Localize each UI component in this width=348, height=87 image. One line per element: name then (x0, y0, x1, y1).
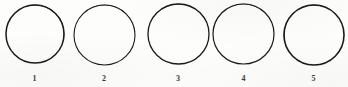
circle-label-1: 1 (28, 75, 42, 83)
circle-4 (209, 0, 278, 68)
circle-row: 12345 (0, 0, 348, 87)
circle-label-3: 3 (171, 75, 185, 83)
circle-5 (280, 1, 348, 69)
figure-plate: 12345 (0, 0, 348, 87)
circle-1 (2, 1, 68, 67)
circle-2 (70, 1, 139, 69)
circle-label-5: 5 (307, 75, 321, 83)
circle-outline (74, 5, 135, 65)
circle-label-2: 2 (97, 75, 111, 83)
circle-3 (144, 0, 213, 68)
circle-outline (213, 4, 274, 64)
circle-label-4: 4 (237, 75, 251, 83)
